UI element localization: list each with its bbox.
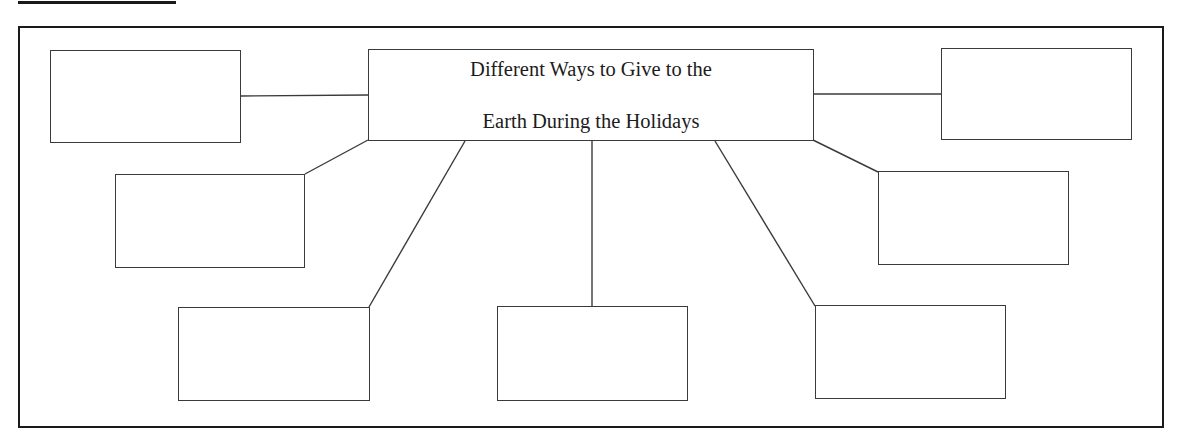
connector-bottom-right — [715, 141, 815, 306]
connector-bottom-left — [369, 141, 465, 307]
answer-box-middle-right[interactable] — [878, 171, 1069, 265]
connector-middle-right — [813, 140, 878, 172]
answer-box-middle-left[interactable] — [115, 174, 305, 268]
center-title-line-1: Different Ways to Give to the — [470, 56, 712, 82]
connector-middle-left — [305, 140, 368, 174]
center-topic-title: Different Ways to Give to the Earth Duri… — [470, 30, 712, 160]
center-topic-box: Different Ways to Give to the Earth Duri… — [368, 49, 814, 141]
answer-box-bottom-center[interactable] — [497, 306, 688, 401]
answer-box-top-left[interactable] — [50, 50, 241, 143]
answer-box-bottom-right[interactable] — [815, 305, 1006, 399]
answer-box-bottom-left[interactable] — [178, 307, 370, 401]
center-title-line-2: Earth During the Holidays — [470, 108, 712, 134]
connector-top-left — [241, 95, 368, 96]
answer-box-top-right[interactable] — [941, 48, 1132, 140]
diagram-canvas: Different Ways to Give to the Earth Duri… — [0, 0, 1182, 438]
